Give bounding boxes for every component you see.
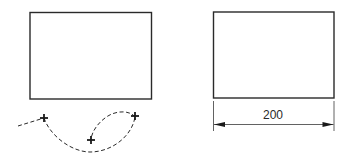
dashed-path (18, 112, 135, 152)
plus-marker-1 (40, 114, 48, 122)
dimension-label: 200 (263, 108, 283, 122)
lead-in-segment (18, 118, 44, 126)
right-rectangle (214, 12, 335, 98)
plus-marker-3 (131, 112, 139, 120)
plus-marker-2 (87, 136, 95, 144)
point-markers (40, 112, 139, 144)
arrowhead-right (323, 122, 334, 127)
arrowhead-left (214, 122, 225, 127)
lower-arc (44, 117, 135, 152)
left-rectangle (30, 13, 152, 100)
diagram-canvas (0, 0, 350, 159)
upper-arc (91, 112, 135, 139)
